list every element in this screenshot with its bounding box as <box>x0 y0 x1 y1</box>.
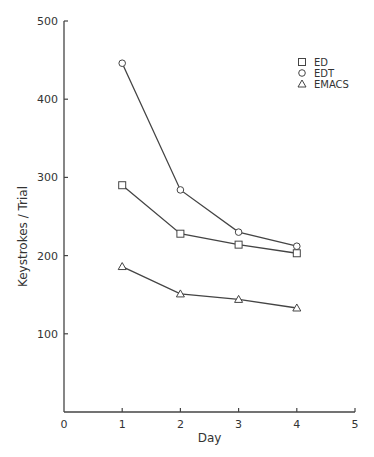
circle-marker <box>119 60 126 67</box>
square-marker <box>177 230 184 237</box>
x-tick-label: 2 <box>177 418 184 431</box>
circle-marker <box>235 229 242 236</box>
y-tick-label: 500 <box>37 15 58 28</box>
y-tick-label: 100 <box>37 328 58 341</box>
triangle-marker <box>176 290 184 297</box>
series-line-ed <box>122 185 297 253</box>
x-tick-label: 4 <box>293 418 300 431</box>
x-tick-label: 1 <box>119 418 126 431</box>
legend-square-icon <box>299 59 306 66</box>
series-line-edt <box>122 63 297 246</box>
line-chart: 100200300400500012345DayKeystrokes / Tri… <box>0 0 374 457</box>
square-marker <box>119 182 126 189</box>
series-line-emacs <box>122 267 297 308</box>
legend-circle-icon <box>299 70 306 77</box>
y-tick-label: 200 <box>37 250 58 263</box>
x-tick-label: 3 <box>235 418 242 431</box>
legend-triangle-icon <box>298 80 306 87</box>
triangle-marker <box>118 263 126 270</box>
legend-label: ED <box>314 57 328 68</box>
circle-marker <box>177 187 184 194</box>
square-marker <box>293 250 300 257</box>
legend-label: EMACS <box>314 79 349 90</box>
x-tick-label: 5 <box>352 418 359 431</box>
y-tick-label: 400 <box>37 93 58 106</box>
x-axis-label: Day <box>198 431 222 445</box>
y-tick-label: 300 <box>37 171 58 184</box>
x-tick-label: 0 <box>61 418 68 431</box>
legend-label: EDT <box>314 68 335 79</box>
square-marker <box>235 241 242 248</box>
circle-marker <box>294 243 301 250</box>
y-axis-label: Keystrokes / Trial <box>16 186 30 287</box>
